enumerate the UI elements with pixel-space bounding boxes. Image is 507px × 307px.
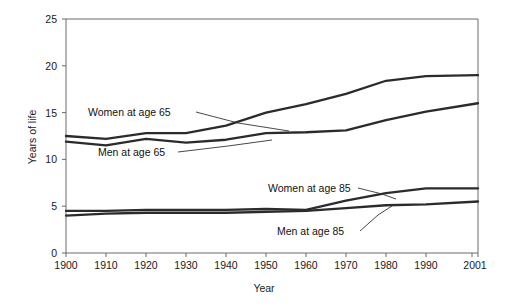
y-axis-title: Years of life	[26, 110, 38, 165]
x-axis-ticks: 1900191019201930194019501960197019801990…	[54, 253, 487, 271]
series-annotation-label: Women at age 85	[268, 182, 351, 194]
y-tick-label: 5	[51, 200, 57, 212]
x-tick-label: 1900	[54, 259, 78, 271]
y-tick-label: 10	[45, 153, 57, 165]
x-tick-label: 1960	[294, 259, 318, 271]
y-axis-ticks: 0510152025	[45, 13, 66, 259]
x-tick-label: 1980	[374, 259, 398, 271]
x-axis-title: Year	[253, 282, 275, 294]
chart-figure: 0510152025 19001910192019301940195019601…	[0, 0, 507, 307]
x-tick-label: 2001	[463, 259, 487, 271]
y-tick-label: 0	[51, 247, 57, 259]
x-tick-label: 1920	[134, 259, 158, 271]
x-tick-label: 1940	[214, 259, 238, 271]
series-annotation-label: Women at age 65	[88, 106, 171, 118]
x-tick-label: 1930	[174, 259, 198, 271]
x-tick-label: 1970	[334, 259, 358, 271]
x-tick-label: 1910	[94, 259, 118, 271]
y-tick-label: 25	[45, 13, 57, 25]
y-tick-label: 20	[45, 60, 57, 72]
life-expectancy-line-chart: 0510152025 19001910192019301940195019601…	[0, 0, 507, 307]
x-tick-label: 1990	[414, 259, 438, 271]
x-tick-label: 1950	[254, 259, 278, 271]
series-annotations-group: Women at age 65Men at age 65Women at age…	[88, 106, 396, 237]
series-annotation-label: Men at age 85	[277, 225, 344, 237]
series-annotation-label: Men at age 65	[98, 146, 165, 158]
y-tick-label: 15	[45, 107, 57, 119]
annotation-leader-line	[360, 206, 392, 231]
